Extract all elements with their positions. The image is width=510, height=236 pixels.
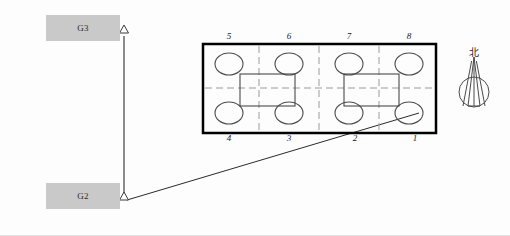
axle-label-6: 6 — [282, 31, 296, 41]
axle-label-4: 4 — [222, 133, 236, 143]
axle-label-5: 5 — [222, 31, 236, 41]
axle-label-8: 8 — [402, 31, 416, 41]
station-marker-g3 — [120, 25, 129, 33]
station-label-box-g3: G3 — [46, 15, 120, 41]
station-marker-g2 — [120, 192, 129, 200]
axle-label-3: 3 — [282, 133, 296, 143]
sight-line-g2-to-axle-1 — [127, 113, 419, 200]
station-label-g2: G2 — [77, 191, 89, 201]
axle-label-2: 2 — [348, 133, 362, 143]
station-label-box-g2: G2 — [46, 183, 120, 209]
diagram-canvas: G3 G2 5678 4321 北 — [0, 0, 510, 236]
compass-rose-icon — [459, 57, 489, 107]
compass-north-label: 北 — [464, 44, 484, 59]
axle-label-7: 7 — [342, 31, 356, 41]
station-label-g3: G3 — [77, 23, 89, 33]
axle-label-1: 1 — [408, 133, 422, 143]
